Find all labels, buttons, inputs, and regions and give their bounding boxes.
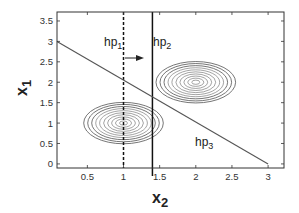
contour-ring (192, 80, 200, 84)
y-tick-label: 1 (48, 118, 53, 129)
y-tick-label: 3.5 (40, 15, 53, 26)
contour-ring (176, 72, 216, 93)
contour-chart: 0.511.522.5300.511.522.533.5 hp1 hp2 hp3… (0, 0, 299, 213)
contour-ring (172, 70, 220, 95)
x-tick-label: 1 (121, 171, 126, 182)
y-tick-label: 2.5 (40, 56, 53, 67)
x-axis-label: x2 (152, 189, 168, 210)
x-tick-label: 0.5 (81, 171, 94, 182)
contour-ring (188, 78, 204, 86)
plot-area-frame (57, 12, 284, 168)
y-tick-label: 0.5 (40, 138, 53, 149)
x-tick-label: 1.5 (153, 171, 166, 182)
hp3-label: hp3 (195, 135, 213, 151)
contour-ring (180, 74, 212, 91)
hp2-label: hp2 (153, 35, 171, 51)
hp3-line (57, 41, 268, 164)
y-axis-label: x1 (13, 80, 34, 96)
y-tick-label: 1.5 (40, 97, 53, 108)
x-tick-label: 2 (193, 171, 198, 182)
y-tick-label: 2 (48, 77, 53, 88)
arrow-icon (125, 55, 144, 61)
y-tick-label: 0 (48, 158, 53, 169)
x-tick-label: 2.5 (225, 171, 238, 182)
contour-ring (160, 64, 232, 101)
hp1-label: hp1 (104, 35, 122, 51)
x-tick-label: 3 (265, 171, 270, 182)
y-tick-label: 3 (48, 36, 53, 47)
contour-ring (164, 66, 228, 99)
